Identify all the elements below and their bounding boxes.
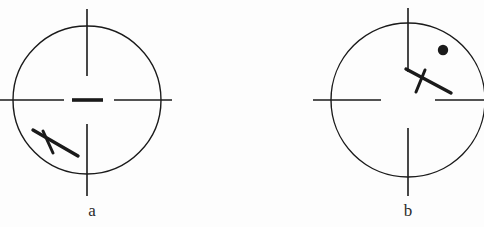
figure-root: a b [0,0,484,227]
panel-label-b: b [376,202,440,219]
diagram-panel-a: a [0,0,242,227]
panel-label-a: a [60,202,124,219]
diagram-b-drawing [242,0,484,227]
diagram-a-drawing [0,0,242,227]
aircraft-fuselage-a [33,130,78,156]
diagram-panel-b: b [242,0,484,227]
aircraft-fuselage-b [406,69,451,93]
target-dot-b [438,45,448,55]
